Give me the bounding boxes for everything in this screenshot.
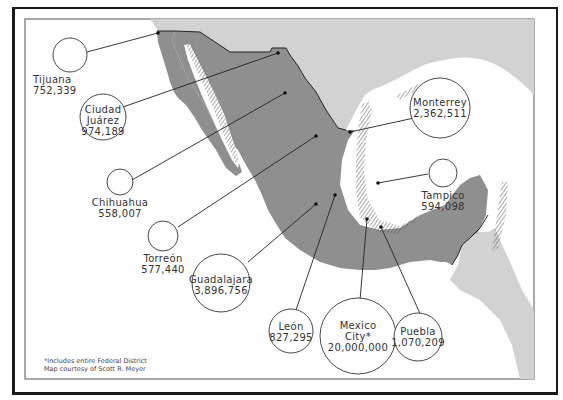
label-monterrey: Monterrey 2,362,511 [405, 97, 475, 119]
circle-chihuahua [107, 169, 133, 195]
label-chihuahua: Chihuahua 558,007 [90, 197, 150, 219]
dot-mexico-city [365, 217, 369, 221]
dot-puebla [379, 225, 383, 229]
dot-chihuahua [283, 91, 287, 95]
footnote: *Includes entire Federal District Map co… [44, 357, 147, 373]
dot-torreon [314, 134, 318, 138]
dot-ciudad-juarez [276, 51, 280, 55]
footnote-federal-district: *Includes entire Federal District [44, 357, 147, 365]
label-guadalajara: Guadalajara 3,896,756 [186, 274, 256, 296]
circle-torreon [148, 221, 178, 251]
label-leon: León 827,295 [266, 321, 316, 343]
dot-guadalajara [314, 202, 318, 206]
label-mexico-city: Mexico City* 20,000,000 [323, 320, 393, 353]
footnote-credit: Map courtesy of Scott R. Meyer [44, 365, 147, 373]
dot-leon [333, 193, 337, 197]
dot-tampico [376, 181, 380, 185]
label-ciudad-juarez: Ciudad Juárez 974,189 [73, 104, 133, 137]
label-puebla: Puebla 1,070,209 [388, 326, 448, 348]
dot-monterrey [348, 130, 352, 134]
circle-tampico [429, 159, 457, 187]
label-tijuana: Tijuana 752,339 [33, 74, 76, 96]
circle-tijuana [53, 38, 87, 72]
label-tampico: Tampico 594,098 [418, 190, 468, 212]
label-torreon: Torreón 577,440 [133, 253, 193, 275]
dot-tijuana [156, 31, 160, 35]
